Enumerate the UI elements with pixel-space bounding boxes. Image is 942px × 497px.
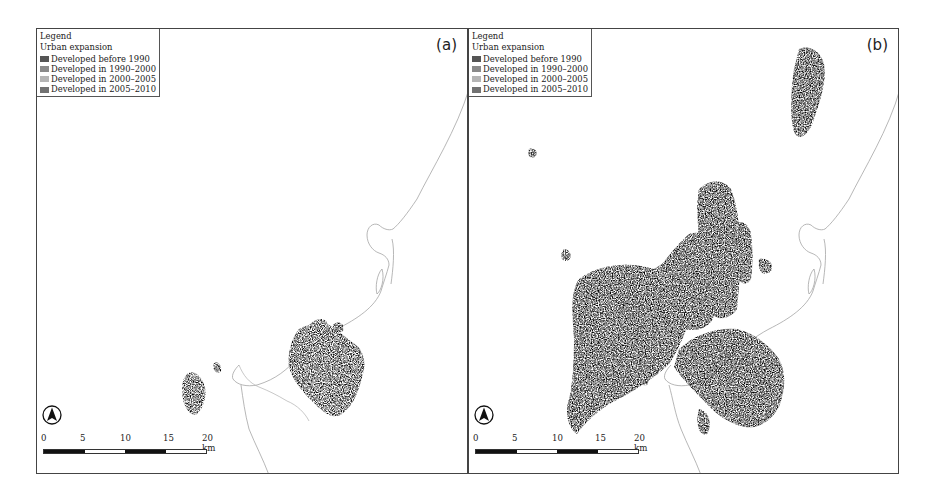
scale-tick: 15 (163, 433, 174, 443)
legend-title: Legend (40, 31, 156, 41)
scale-tick: 0 (41, 433, 46, 443)
legend-swatch (472, 76, 481, 82)
coastline-spit (391, 239, 394, 284)
scale-tick: 5 (512, 433, 517, 443)
scale-tick: 15 (595, 433, 606, 443)
legend: Legend Urban expansion Developed before … (469, 29, 592, 97)
panel-label: (a) (436, 36, 457, 54)
legend-item-label: Developed before 1990 (51, 54, 150, 64)
legend-item-1990-2000: Developed in 1990–2000 (472, 64, 588, 74)
legend-swatch (472, 56, 481, 62)
legend-title: Legend (472, 31, 588, 41)
panel-label: (b) (867, 36, 888, 54)
legend-item-label: Developed in 1990–2000 (51, 64, 156, 74)
legend-item-2000-2005: Developed in 2000–2005 (40, 74, 156, 84)
legend-item-label: Developed in 2000–2005 (51, 74, 156, 84)
legend-item-2005-2010: Developed in 2005–2010 (40, 84, 156, 94)
legend-item-label: Developed before 1990 (483, 54, 582, 64)
north-arrow-icon (42, 405, 62, 425)
map-panel-b: Legend Urban expansion Developed before … (468, 28, 899, 474)
scale-tick: 10 (120, 433, 131, 443)
scale-tick: 0 (473, 433, 478, 443)
legend-swatch (40, 66, 49, 72)
river (669, 385, 701, 474)
scale-tick: 10 (552, 433, 563, 443)
legend-swatch (472, 66, 481, 72)
legend-item-label: Developed in 1990–2000 (483, 64, 588, 74)
legend-item-label: Developed in 2005–2010 (51, 84, 156, 94)
lagoon (808, 269, 815, 294)
scale-bar: 0 5 10 15 20 km (473, 433, 643, 459)
north-arrow-icon (474, 405, 494, 425)
map-panel-a: Legend Urban expansion Developed before … (36, 28, 468, 474)
coastline-spit (823, 239, 826, 284)
legend-item-before-1990: Developed before 1990 (472, 54, 588, 64)
legend-swatch (40, 76, 49, 82)
river (241, 385, 269, 474)
legend-item-label: Developed in 2005–2010 (483, 84, 588, 94)
legend-item-2005-2010: Developed in 2005–2010 (472, 84, 588, 94)
legend-swatch (40, 56, 49, 62)
legend-swatch (472, 87, 481, 93)
legend-swatch (40, 87, 49, 93)
legend-subtitle: Urban expansion (472, 42, 588, 52)
scale-tick: 5 (80, 433, 85, 443)
legend-item-label: Developed in 2000–2005 (483, 74, 588, 84)
legend: Legend Urban expansion Developed before … (37, 29, 160, 97)
legend-item-2000-2005: Developed in 2000–2005 (472, 74, 588, 84)
legend-subtitle: Urban expansion (40, 42, 156, 52)
scale-bar: 0 5 10 15 20 km (41, 433, 211, 459)
legend-item-1990-2000: Developed in 1990–2000 (40, 64, 156, 74)
scale-bar-graphic (475, 449, 639, 454)
scale-bar-graphic (43, 449, 207, 454)
lagoon (376, 269, 383, 294)
legend-item-before-1990: Developed before 1990 (40, 54, 156, 64)
